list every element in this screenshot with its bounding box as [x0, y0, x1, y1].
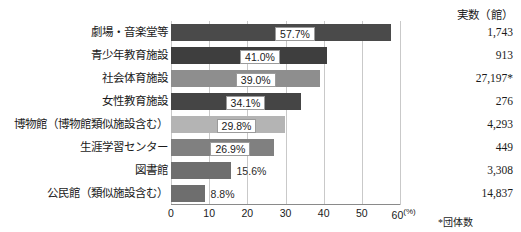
value-cell: 4,293: [403, 113, 513, 136]
x-tick-10: 10: [203, 207, 215, 219]
category-label: 図書館: [3, 159, 171, 182]
bar-value-label: 8.8%: [211, 188, 235, 200]
bar-value-label: 57.7%: [275, 27, 315, 41]
bar-row: 39.0%: [171, 67, 400, 90]
bar-row: 26.9%: [171, 136, 400, 159]
value-cell: 913: [403, 44, 513, 67]
bar-value-label: 26.9%: [210, 142, 250, 156]
x-tick-0: 0: [168, 207, 174, 219]
bar-row: 29.8%: [171, 113, 400, 136]
x-tick-40: 40: [318, 207, 330, 219]
x-tick-20: 20: [241, 207, 253, 219]
value-cell: 3,308: [403, 159, 513, 182]
plot-area: 57.7%41.0%39.0%34.1%29.8%26.9%15.6%8.8%: [171, 21, 400, 205]
bar: [171, 185, 205, 202]
value-cell: 1,743: [403, 21, 513, 44]
footnote: *団体数: [438, 214, 473, 229]
bar-row: 8.8%: [171, 182, 400, 205]
bar-value-label: 41.0%: [240, 50, 280, 64]
value-column: 1,74391327,197*2764,2934493,30814,837: [400, 21, 521, 205]
value-cell: 27,197*: [403, 67, 513, 90]
bar-row: 57.7%: [171, 21, 400, 44]
bar-value-label: 29.8%: [217, 119, 257, 133]
value-cell: 276: [403, 90, 513, 113]
x-tick-50: 50: [356, 207, 368, 219]
bar-row: 15.6%: [171, 159, 400, 182]
bar-value-label: 39.0%: [236, 73, 276, 87]
value-column-header: 実数（館）: [457, 6, 513, 22]
value-cell: 14,837: [403, 182, 513, 205]
bar-row: 34.1%: [171, 90, 400, 113]
bar-value-label: 34.1%: [226, 96, 266, 110]
bar-value-label: 15.6%: [237, 165, 267, 177]
category-label: 博物館（博物館類似施設含む）: [3, 113, 171, 136]
bar: [171, 162, 231, 179]
x-tick-30: 30: [280, 207, 292, 219]
category-label: 女性教育施設: [3, 90, 171, 113]
category-label: 青少年教育施設: [3, 44, 171, 67]
category-label: 劇場・音楽堂等: [3, 21, 171, 44]
x-tick-60: 60(%): [392, 207, 416, 221]
category-label: 生涯学習センター: [3, 136, 171, 159]
category-label: 社会体育施設: [3, 67, 171, 90]
bar-row: 41.0%: [171, 44, 400, 67]
category-label: 公民館（類似施設含む）: [3, 182, 171, 205]
bar-chart: 実数（館） 劇場・音楽堂等青少年教育施設社会体育施設女性教育施設博物館（博物館類…: [0, 0, 521, 232]
x-axis-line: [171, 204, 400, 205]
category-label-column: 劇場・音楽堂等青少年教育施設社会体育施設女性教育施設博物館（博物館類似施設含む）…: [0, 21, 171, 205]
value-cell: 449: [403, 136, 513, 159]
